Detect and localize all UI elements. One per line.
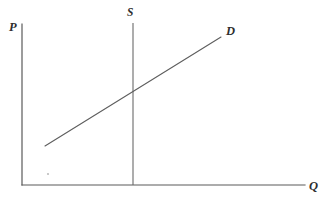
x-axis-label-quantity: Q bbox=[309, 180, 318, 193]
supply-curve-label: S bbox=[127, 7, 133, 19]
economics-supply-demand-figure: P Q S D bbox=[0, 0, 332, 203]
demand-curve-label: D bbox=[226, 25, 235, 38]
scan-speck-artifact bbox=[47, 173, 49, 175]
y-axis-label-price: P bbox=[9, 21, 17, 34]
figure-canvas bbox=[0, 0, 332, 203]
